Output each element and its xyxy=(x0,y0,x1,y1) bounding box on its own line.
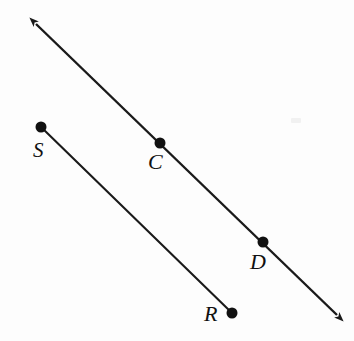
point-c-dot xyxy=(155,138,166,149)
segment-sr-group xyxy=(41,127,232,313)
point-d-dot xyxy=(258,237,269,248)
point-label-d: D xyxy=(250,251,266,273)
geometry-canvas xyxy=(0,0,354,341)
line-cd-group xyxy=(36,24,337,315)
line-cd xyxy=(36,24,337,315)
scan-artifact xyxy=(291,118,301,123)
segment-sr xyxy=(41,127,232,313)
point-s-dot xyxy=(36,122,47,133)
geometry-figure: S C D R xyxy=(0,0,354,341)
point-label-s: S xyxy=(33,140,44,161)
point-label-c: C xyxy=(148,151,163,173)
point-r-dot xyxy=(227,308,238,319)
point-label-r: R xyxy=(204,303,217,325)
